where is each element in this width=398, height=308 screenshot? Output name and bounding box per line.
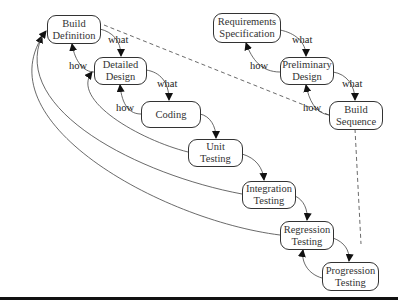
node-label: Regression	[284, 224, 331, 236]
edge-label-how: how	[303, 102, 321, 113]
node-label: Specification	[219, 28, 274, 40]
node-label: Testing	[292, 236, 323, 248]
node-label: Coding	[156, 109, 187, 121]
edge-coding-unit	[200, 114, 216, 138]
node-requirements-specification: Requirements Specification	[213, 13, 281, 43]
node-label: Testing	[254, 195, 285, 207]
node-label: Build	[344, 104, 367, 116]
node-label: Detailed	[103, 59, 139, 71]
node-label: Testing	[200, 153, 231, 165]
edge-label-what: what	[108, 34, 128, 45]
node-integration-testing: Integration Testing	[242, 181, 296, 209]
node-build-sequence: Build Sequence	[329, 101, 383, 130]
edge-unit-integration	[242, 154, 264, 180]
node-label: Sequence	[336, 116, 376, 128]
edge-label-how: how	[69, 60, 87, 71]
node-build-definition: Build Definition	[47, 15, 101, 44]
node-label: Unit	[206, 141, 225, 153]
node-label: Requirements	[218, 16, 276, 28]
node-unit-testing: Unit Testing	[188, 139, 243, 167]
edge-label-what: what	[292, 34, 312, 45]
node-label: Testing	[335, 277, 366, 289]
diagram-canvas: Build Definition Detailed Design Coding …	[0, 0, 398, 308]
node-label: Build	[62, 18, 85, 30]
edge-label-how: how	[250, 60, 268, 71]
node-detailed-design: Detailed Design	[94, 57, 147, 85]
edge-label-how: how	[116, 102, 134, 113]
node-regression-testing: Regression Testing	[280, 221, 334, 250]
edge-integration-regression	[295, 196, 307, 220]
edge-progression-regression	[303, 250, 322, 278]
node-label: Progression	[326, 265, 376, 277]
node-label: Integration	[246, 183, 292, 195]
edge-buildseq-progression-dashed	[355, 129, 361, 244]
node-preliminary-design: Preliminary Design	[280, 57, 334, 85]
node-label: Preliminary	[282, 59, 332, 71]
edge-label-what: what	[342, 78, 362, 89]
node-label: Design	[292, 71, 322, 83]
node-progression-testing: Progression Testing	[322, 262, 379, 291]
edge-label-what: what	[157, 78, 177, 89]
node-label: Definition	[52, 30, 95, 42]
edge-regression-progression	[333, 238, 349, 261]
bottom-rule	[0, 297, 398, 300]
node-label: Design	[106, 71, 136, 83]
node-coding: Coding	[141, 101, 201, 128]
